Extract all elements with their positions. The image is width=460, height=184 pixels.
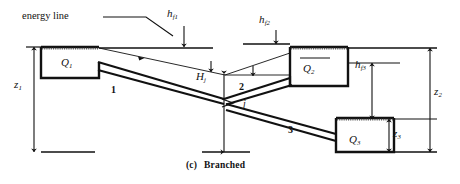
reservoir-3	[336, 118, 394, 152]
energy-line-label: energy line	[22, 10, 69, 21]
pipe-2-label: 2	[239, 81, 244, 92]
Hj-label: Hj	[196, 70, 206, 82]
pipe-3	[226, 104, 336, 141]
energy-grade-line-1	[99, 48, 225, 75]
z2-label: z2	[434, 85, 442, 97]
figure-caption-prefix: (c)	[186, 160, 197, 170]
z3-label: z3	[393, 127, 401, 139]
dimension-arrows	[26, 26, 430, 152]
Q2-label: Q2	[303, 62, 314, 74]
pipe-1-label: 1	[111, 84, 116, 95]
hf2-label: hf2	[259, 13, 270, 25]
energy-grade-line-2	[225, 44, 290, 75]
junction-point-label: j	[243, 98, 246, 109]
branched-pipe-diagram: energy line hf1 hf2 hf3 Hj z1 z2 z3 Q1 Q…	[0, 0, 460, 184]
energy-line-leader	[103, 17, 173, 36]
pipe-3-label: 3	[288, 124, 293, 135]
diagram-canvas	[0, 0, 460, 184]
Q3-label: Q3	[349, 133, 360, 145]
pipe-1	[98, 62, 224, 104]
reservoir-2	[290, 47, 348, 86]
hf1-label: hf1	[167, 7, 178, 19]
hf3-label: hf3	[355, 58, 366, 70]
Q1-label: Q1	[61, 56, 72, 68]
z1-label: z1	[14, 78, 22, 90]
pipe-2	[224, 76, 292, 105]
figure-caption-text: Branched	[204, 160, 245, 170]
